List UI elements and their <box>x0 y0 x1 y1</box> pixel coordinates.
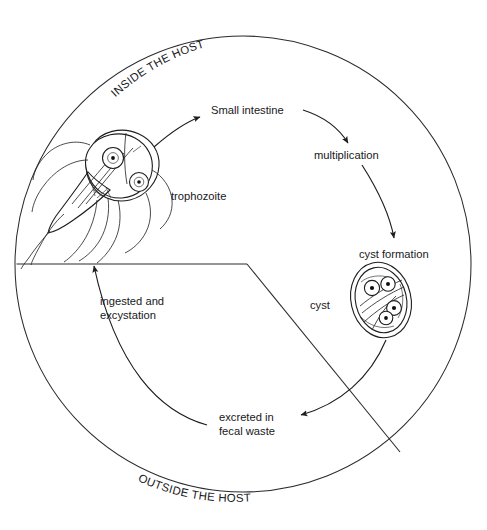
trophozoite-flagellum-3 <box>152 170 172 229</box>
arrow-small-intestine-to-multiplication <box>303 110 348 143</box>
label-cyst: cyst <box>310 299 331 311</box>
arrow-trophozoite-to-small-intestine <box>154 117 200 147</box>
life-cycle-diagram: INSIDE THE HOST OUTSIDE THE HOST <box>0 0 487 530</box>
trophozoite-flagellum-7 <box>31 214 64 265</box>
label-ingested-line2: excystation <box>100 309 156 321</box>
label-trophozoite: trophozoite <box>171 190 226 202</box>
arrow-excreted-to-trophozoite <box>94 266 207 425</box>
trophozoite-flagellum-2 <box>32 160 88 212</box>
inside-the-host-label: INSIDE THE HOST <box>109 37 206 99</box>
trophozoite-nucleus-2 <box>130 173 149 192</box>
trophozoite-nucleus-1 <box>103 148 124 169</box>
trophozoite-flagellum-4 <box>125 193 151 253</box>
diagram-canvas: INSIDE THE HOST OUTSIDE THE HOST <box>0 0 487 530</box>
label-ingested-line1: ingested and <box>100 295 164 307</box>
cyst-inner-wall <box>349 262 414 338</box>
arrow-cyst-to-excreted <box>301 340 386 415</box>
cyst-drawing <box>343 256 419 344</box>
trophozoite-flagellum-5 <box>79 198 109 261</box>
label-excreted-line1: excreted in <box>219 411 274 423</box>
label-cyst-formation: cyst formation <box>359 248 429 260</box>
outside-the-host-label: OUTSIDE THE HOST <box>137 472 252 504</box>
cyst-nucleus-2 <box>381 277 395 291</box>
cyst-nucleus-1 <box>364 280 379 295</box>
label-small-intestine: Small intestine <box>211 104 284 116</box>
cyst-nucleus-4 <box>379 311 393 325</box>
arrow-multiplication-to-cyst-formation <box>362 165 394 238</box>
trophozoite-drawing <box>21 130 172 269</box>
trophozoite-flagellum-1 <box>33 142 90 180</box>
trophozoite-flagellum-6 <box>64 200 97 262</box>
label-multiplication: multiplication <box>314 149 379 161</box>
label-excreted-line2: fecal waste <box>219 425 275 437</box>
